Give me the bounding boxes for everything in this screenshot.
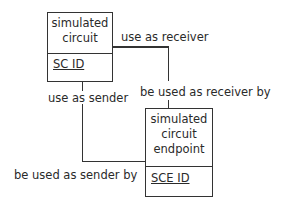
entity-name: simulated circuit endpoint (146, 109, 212, 167)
connector-line (168, 46, 170, 81)
entity-name: simulated circuit (48, 13, 112, 54)
relationship-label-be-used-as-receiver-by: be used as receiver by (140, 86, 271, 99)
entity-simulated-circuit[interactable]: simulated circuit SC ID (47, 12, 113, 82)
entity-name-line: simulated (146, 112, 212, 127)
relationship-label-use-as-sender: use as sender (48, 92, 128, 105)
connector-line (168, 100, 170, 108)
relationship-label-use-as-receiver: use as receiver (121, 31, 208, 44)
entity-name-line: simulated (48, 16, 112, 31)
connector-line (113, 46, 169, 48)
connector-line (82, 82, 84, 91)
relationship-label-be-used-as-sender-by: be used as sender by (14, 169, 137, 182)
primary-key: SCE ID (151, 171, 190, 185)
entity-name-line: endpoint (146, 142, 212, 157)
connector-line (82, 104, 84, 162)
primary-key: SC ID (53, 57, 84, 71)
entity-simulated-circuit-endpoint[interactable]: simulated circuit endpoint SCE ID (145, 108, 213, 197)
connector-line (82, 161, 146, 163)
entity-name-line: circuit (146, 127, 212, 142)
entity-name-line: circuit (48, 31, 112, 46)
